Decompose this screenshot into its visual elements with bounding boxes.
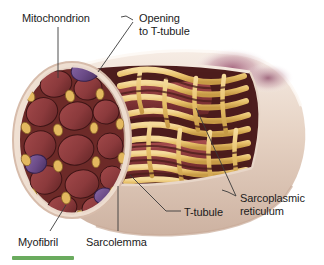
label-opening-to-t-tubule: Opening to T-tubule <box>139 12 190 37</box>
label-myofibril: Myofibril <box>18 236 58 249</box>
muscle-fiber-diagram: Mitochondrion Opening to T-tubule Sarcop… <box>0 0 324 265</box>
accent-bar <box>12 256 74 260</box>
label-mitochondrion: Mitochondrion <box>22 12 90 25</box>
diagram-artwork <box>0 0 324 265</box>
label-sarcoplasmic-reticulum: Sarcoplasmic reticulum <box>240 192 305 217</box>
label-sarcolemma: Sarcolemma <box>86 236 147 249</box>
leader-opening-hook <box>121 16 133 20</box>
label-t-tubule: T-tubule <box>184 206 223 219</box>
